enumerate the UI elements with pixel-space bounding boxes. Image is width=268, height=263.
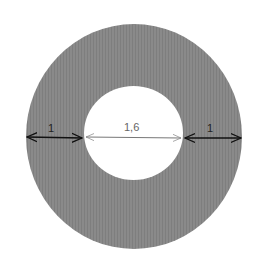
ring-diagram: 1 1,6 1 bbox=[0, 0, 268, 263]
right-width-label: 1 bbox=[207, 122, 213, 134]
inner-hole bbox=[84, 86, 183, 180]
left-width-arrow bbox=[27, 137, 82, 138]
left-width-label: 1 bbox=[48, 122, 54, 134]
inner-diameter-label: 1,6 bbox=[124, 121, 139, 133]
